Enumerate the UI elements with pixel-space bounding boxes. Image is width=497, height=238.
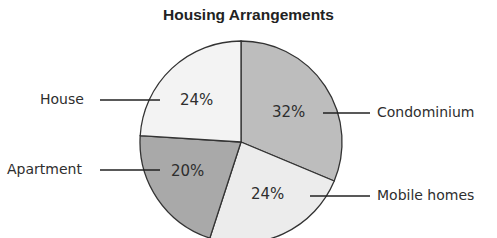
label-house: House bbox=[40, 91, 84, 107]
label-mobile-homes: Mobile homes bbox=[377, 187, 474, 203]
label-condominium: Condominium bbox=[377, 104, 474, 120]
pct-apartment: 20% bbox=[171, 162, 204, 180]
pct-house: 24% bbox=[180, 91, 213, 109]
label-apartment: Apartment bbox=[7, 161, 82, 177]
pct-condominium: 32% bbox=[272, 103, 305, 121]
pct-mobile-homes: 24% bbox=[251, 185, 284, 203]
